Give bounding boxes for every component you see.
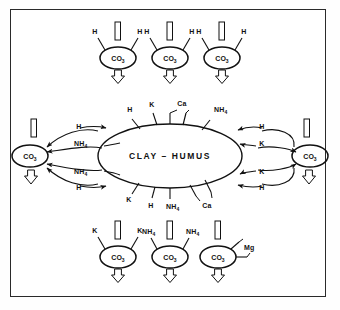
left-arrow-tail-2	[104, 143, 120, 146]
bottom-row-molecule-3: CO3 Mg	[200, 221, 255, 283]
core-top-leg-ca-b	[183, 113, 186, 125]
ion-left: K	[92, 227, 97, 234]
core-bottom-ion-nh4: NH4	[166, 203, 180, 212]
right-arrow-in-2	[240, 144, 256, 146]
ion-right: H	[241, 28, 246, 35]
ion-right: NH4	[186, 228, 200, 237]
core-bottom-ca-bracket-a	[196, 196, 200, 201]
core-bottom-leg-ca-b	[205, 180, 211, 192]
inflow-shaft-icon	[215, 221, 221, 239]
leg-right	[183, 238, 189, 249]
core-bottom-ion-ca: Ca	[202, 202, 211, 209]
leg-mg-bracket-b	[247, 253, 250, 257]
leg-right	[235, 38, 242, 50]
outflow-down-arrow-icon	[112, 269, 125, 283]
outflow-down-arrow-icon	[164, 70, 177, 84]
left-arrow-out-1	[80, 127, 106, 129]
leg-mg-bracket-a	[239, 239, 243, 242]
right-arrow-out-2	[258, 147, 296, 152]
core-bottom-leg-h	[152, 187, 155, 198]
molecule-label: CO3	[23, 153, 37, 162]
core-top-ca-bracket-b	[186, 110, 189, 113]
outflow-down-arrow-icon	[212, 269, 225, 283]
inflow-shaft-icon	[115, 22, 121, 40]
diagram-canvas: CLAY – HUMUS H K Ca NH4 K H NH4 Ca	[0, 0, 340, 310]
core-top-ion-ca: Ca	[177, 100, 186, 107]
inflow-shaft-icon	[219, 22, 225, 40]
left-side-molecule: CO3	[12, 119, 48, 184]
core-top-leg-k	[153, 113, 157, 125]
left-arrow-in-1	[47, 130, 98, 147]
right-exchange-label-3: K	[259, 168, 264, 175]
core-bottom-ion-k: K	[126, 196, 131, 203]
molecule-label: CO3	[211, 254, 225, 263]
core-label: CLAY – HUMUS	[129, 151, 211, 161]
leg-right	[131, 237, 138, 249]
leg-left	[98, 237, 105, 249]
left-exchange-label-1: H	[76, 123, 81, 130]
right-arrow-in-3	[240, 171, 256, 174]
inflow-shaft-icon	[304, 119, 310, 137]
leg-left	[151, 238, 157, 249]
left-exchange-label-4: H	[76, 184, 81, 191]
bottom-row-molecule-1: CO3 K K	[92, 221, 142, 283]
molecule-label: CO3	[163, 254, 177, 263]
clay-humus-core: CLAY – HUMUS H K Ca NH4 K H NH4 Ca	[98, 100, 242, 212]
left-arrow-out-4	[80, 186, 106, 188]
ion-left: NH4	[142, 228, 156, 237]
ion-left: H	[144, 28, 149, 35]
ion-left: H	[196, 28, 201, 35]
right-exchange-label-2: K	[259, 140, 264, 147]
inflow-shaft-icon	[167, 22, 173, 40]
outflow-down-arrow-icon	[25, 170, 38, 184]
molecule-label: CO3	[111, 55, 125, 64]
bottom-row-molecule-2: CO3 NH4 NH4	[142, 221, 200, 283]
ion-left: H	[92, 28, 97, 35]
outflow-down-arrow-icon	[303, 170, 316, 184]
top-row-molecule-2: CO3 H H	[144, 22, 194, 84]
outflow-down-arrow-icon	[112, 70, 125, 84]
outflow-down-arrow-icon	[164, 269, 177, 283]
core-top-ion-h: H	[127, 106, 132, 113]
inflow-shaft-icon	[31, 119, 37, 137]
right-exchange-label-4: H	[259, 184, 264, 191]
right-exchange-label-1: H	[259, 123, 264, 130]
molecule-label: CO3	[303, 153, 317, 162]
core-top-ion-k: K	[149, 101, 154, 108]
molecule-label: CO3	[163, 55, 177, 64]
outflow-down-arrow-icon	[216, 70, 229, 84]
ion-mg: Mg	[244, 244, 255, 252]
top-row-molecule-3: CO3 H H	[196, 22, 246, 84]
core-top-ca-bracket-a	[170, 110, 177, 113]
inflow-shaft-icon	[115, 221, 121, 239]
leg-right	[183, 38, 190, 50]
core-bottom-ion-h: H	[148, 202, 153, 209]
core-bottom-ca-bracket-b	[211, 192, 212, 198]
right-arrow-tail-1	[262, 130, 294, 147]
core-top-ion-nh4: NH4	[214, 106, 228, 115]
molecule-label: CO3	[111, 254, 125, 263]
leg-left	[98, 38, 105, 50]
diagram-svg: CLAY – HUMUS H K Ca NH4 K H NH4 Ca	[0, 0, 340, 310]
leg-mg-a	[231, 242, 239, 249]
inflow-shaft-icon	[167, 221, 173, 239]
left-exchange-label-3: NH4	[74, 168, 88, 177]
leg-left	[202, 38, 209, 50]
molecule-label: CO3	[215, 55, 229, 64]
leg-right	[131, 38, 138, 50]
top-row-molecule-1: CO3 H H	[92, 22, 142, 84]
left-arrow-in-2	[47, 147, 102, 152]
right-exchange-arrows: H K K H	[238, 123, 296, 191]
ion-right: H	[189, 28, 194, 35]
leg-left	[150, 38, 157, 50]
right-side-molecule: CO3	[292, 119, 328, 184]
ion-right: H	[137, 28, 142, 35]
left-exchange-arrows: H NH4 NH4 H	[47, 123, 120, 191]
